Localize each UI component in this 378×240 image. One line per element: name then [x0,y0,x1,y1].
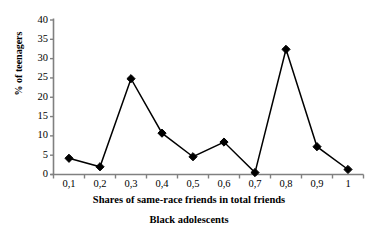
x-axis-tick-label: 1 [328,178,368,189]
chart-subtitle: Black adolescents [0,214,378,225]
x-axis-label: Shares of same-race friends in total fri… [0,194,378,205]
chart-figure: % of teenagers 0510152025303540 0,10,20,… [0,0,378,240]
